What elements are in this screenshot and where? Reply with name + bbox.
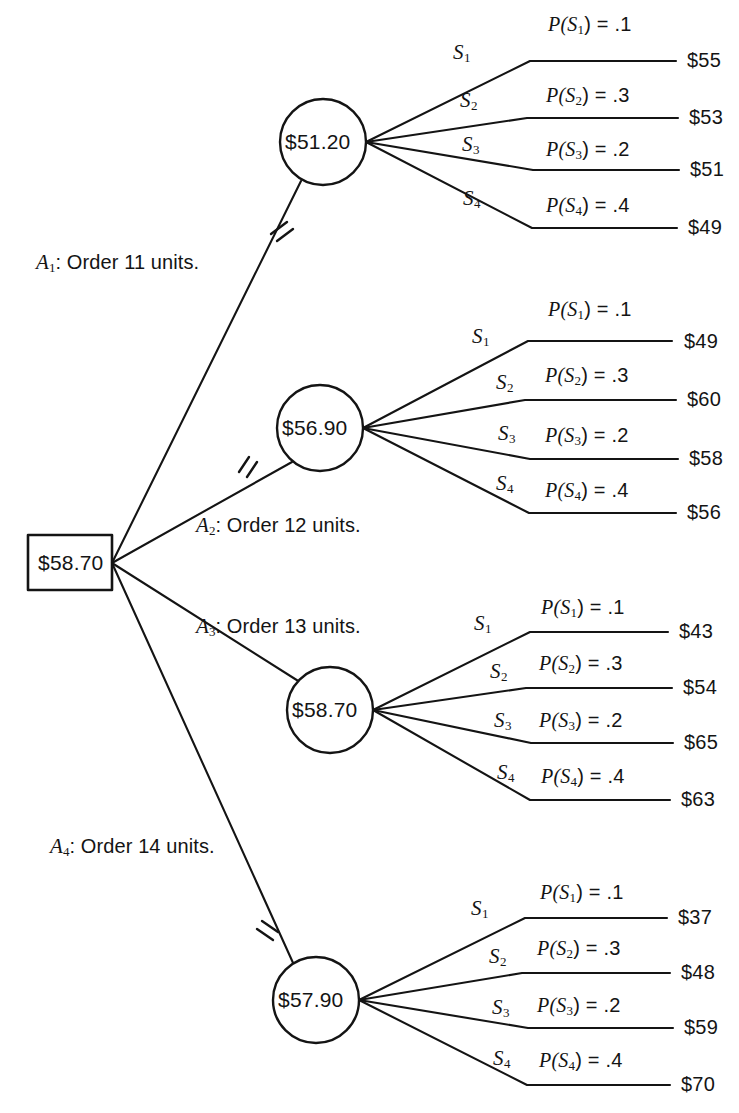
state-label-3-3: S3 [494,710,512,732]
state-edge-3-3 [373,710,673,743]
state-subscript: 2 [507,380,514,395]
state-symbol: S [474,611,485,635]
prob-prefix: P( [539,1049,558,1071]
prob-label-2-4: P(S4) = .4 [545,480,629,502]
state-label-2-2: S2 [496,372,514,394]
action-text-4: : Order 14 units. [70,835,215,857]
state-subscript: 1 [482,906,489,921]
prob-label-4-2: P(S2) = .3 [537,938,621,960]
prob-label-3-2: P(S2) = .3 [539,653,623,675]
state-label-2-1: S1 [472,326,490,348]
action-subscript-2: 2 [209,523,216,538]
state-subscript: 1 [483,334,490,349]
state-label-4-2: S2 [489,946,507,968]
prob-state: S [564,424,574,446]
state-edge-1-2 [366,118,678,142]
prob-state: S [560,596,570,618]
root-node-value: $58.70 [38,552,103,573]
state-symbol: S [463,186,474,210]
state-symbol: S [471,896,482,920]
prob-state: S [564,479,574,501]
action-text-3: : Order 13 units. [216,615,361,637]
prob-value: ) = .3 [582,84,629,106]
state-symbol: S [498,421,509,445]
state-subscript: 4 [474,196,481,211]
action-symbol-1: A [36,250,49,274]
action-symbol-2: A [196,513,209,537]
prob-prefix: P( [541,596,560,618]
state-subscript: 2 [500,954,507,969]
state-symbol: S [462,132,473,156]
action-subscript-1: 1 [49,260,56,275]
action-subscript-4: 4 [63,844,70,859]
payoff-4-4: $70 [681,1074,715,1094]
prob-prefix: P( [537,937,556,959]
chance-node-value-2: $56.90 [282,417,347,438]
state-subscript: 1 [485,621,492,636]
prob-value: ) = .2 [573,994,620,1016]
state-symbol: S [497,760,508,784]
state-subscript: 3 [503,1005,510,1020]
prob-value: ) = .1 [576,881,623,903]
state-subscript: 3 [473,142,480,157]
prob-prefix: P( [546,194,565,216]
action-label-2: A2: Order 12 units. [196,515,361,537]
prob-prefix: P( [537,994,556,1016]
prob-value: ) = .1 [577,596,624,618]
payoff-3-4: $63 [681,789,715,809]
prob-state: S [556,994,566,1016]
prob-label-1-1: P(S1) = .1 [548,14,632,36]
action-symbol-3: A [196,614,209,638]
action-label-4: A4: Order 14 units. [50,836,215,858]
pruned-mark-1 [271,222,293,241]
prob-prefix: P( [545,424,564,446]
action-subscript-3: 3 [209,624,216,639]
prob-prefix: P( [545,364,564,386]
prob-state: S [559,881,569,903]
action-symbol-4: A [50,834,63,858]
prob-label-3-1: P(S1) = .1 [541,597,625,619]
prob-state: S [558,652,568,674]
payoff-4-2: $48 [681,962,715,982]
prob-prefix: P( [541,765,560,787]
state-edge-2-4 [363,428,676,513]
prob-value: ) = .4 [575,1049,622,1071]
state-symbol: S [496,370,507,394]
payoff-2-3: $58 [689,448,723,468]
action-edge-1 [112,181,301,563]
prob-prefix: P( [546,138,565,160]
chance-node-value-1: $51.20 [285,131,350,152]
payoff-4-3: $59 [684,1017,718,1037]
payoff-1-4: $49 [688,217,722,237]
action-text-1: : Order 11 units. [56,251,200,273]
state-subscript: 3 [505,718,512,733]
state-label-1-3: S3 [462,134,480,156]
prob-label-2-2: P(S2) = .3 [545,365,629,387]
state-symbol: S [493,1046,504,1070]
pruned-mark-2 [239,457,257,477]
prob-label-1-3: P(S3) = .2 [546,139,630,161]
state-symbol: S [489,944,500,968]
prob-value: ) = .2 [581,424,628,446]
chance-node-value-3: $58.70 [292,699,357,720]
payoff-1-1: $55 [687,50,721,70]
state-label-4-3: S3 [492,997,510,1019]
payoff-4-1: $37 [678,907,712,927]
state-subscript: 4 [507,481,514,496]
chance-node-value-4: $57.90 [278,989,343,1010]
state-label-1-4: S4 [463,188,481,210]
state-edge-4-4 [359,1000,670,1085]
state-symbol: S [472,324,483,348]
prob-prefix: P( [539,709,558,731]
state-edge-1-4 [366,142,677,228]
prob-state: S [565,138,575,160]
state-subscript: 4 [504,1056,511,1071]
payoff-3-1: $43 [679,621,713,641]
state-label-2-4: S4 [496,473,514,495]
prob-value: ) = .3 [575,652,622,674]
decision-tree-diagram: $58.70 A1: Order 11 units. A2: Order 12 … [0,0,739,1113]
state-edge-3-1 [373,632,668,710]
state-edge-3-4 [373,710,670,800]
prob-value: ) = .1 [584,298,631,320]
state-label-4-1: S1 [471,898,489,920]
